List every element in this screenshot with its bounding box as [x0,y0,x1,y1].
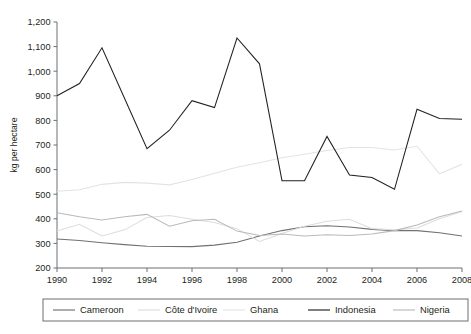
x-tick-label: 2006 [407,275,427,285]
plot-area [57,38,462,247]
y-tick-label: 1,000 [28,67,51,77]
x-tick-label: 1994 [137,275,157,285]
series-line-indonesia [57,38,462,189]
y-tick-label: 700 [35,140,50,150]
y-tick-label: 600 [35,165,50,175]
legend: CameroonCôte d'IvoireGhanaIndonesiaNiger… [43,299,468,321]
legend-label-nigeria: Nigeria [420,304,450,315]
x-axis: 1990199219941996199820002002200420062008 [47,268,471,285]
y-tick-label: 900 [35,91,50,101]
y-tick-label: 300 [35,239,50,249]
x-tick-label: 2008 [452,275,471,285]
series-line-ghana [57,146,462,191]
y-tick-label: 200 [35,263,50,273]
legend-label-ghana: Ghana [250,304,279,315]
x-tick-label: 1992 [92,275,112,285]
x-tick-label: 2000 [272,275,292,285]
y-tick-label: 1,100 [28,42,51,52]
y-tick-label: 400 [35,214,50,224]
x-tick-label: 1990 [47,275,67,285]
series-line-c-te-d-ivoire [57,211,462,241]
y-axis: 2003004005006007008009001,0001,1001,200k… [9,17,57,273]
y-tick-label: 1,200 [28,17,51,27]
y-axis-title: kg per hectare [9,117,19,172]
line-chart: 2003004005006007008009001,0001,1001,200k… [0,0,471,334]
chart-canvas: 2003004005006007008009001,0001,1001,200k… [0,0,471,334]
legend-label-c-te-d-ivoire: Côte d'Ivoire [165,304,217,315]
legend-label-cameroon: Cameroon [80,304,124,315]
y-tick-label: 500 [35,190,50,200]
x-tick-label: 2002 [317,275,337,285]
legend-label-indonesia: Indonesia [335,304,376,315]
x-tick-label: 2004 [362,275,382,285]
x-tick-label: 1996 [182,275,202,285]
y-tick-label: 800 [35,116,50,126]
x-tick-label: 1998 [227,275,247,285]
